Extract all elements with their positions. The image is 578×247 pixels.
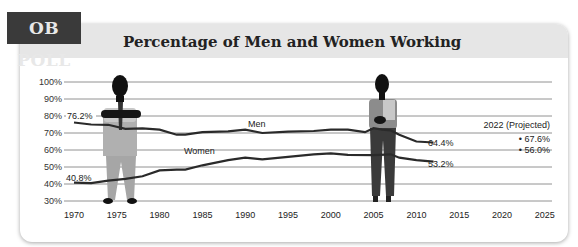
y-axis-labels: 30%40%50%60%70%80%90%100% (39, 77, 62, 206)
x-tick-label: 2015 (449, 210, 469, 220)
x-tick-label: 1995 (278, 210, 298, 220)
chart-annotations: 76.2%40.8%MenWomen64.4%53.2%2022 (Projec… (66, 110, 550, 183)
x-tick-label: 2020 (492, 210, 512, 220)
x-axis-labels: 1970197519801985199019952000200520102015… (64, 210, 555, 220)
y-tick-label: 50% (44, 162, 62, 172)
men-projected-value: • 67.6% (519, 134, 550, 144)
chart-card: Percentage of Men and Women Working 30%4… (20, 24, 568, 242)
y-tick-label: 40% (44, 179, 62, 189)
x-tick-label: 2010 (406, 210, 426, 220)
x-tick-label: 2000 (321, 210, 341, 220)
x-tick-label: 2005 (364, 210, 384, 220)
x-tick-label: 2025 (535, 210, 555, 220)
women-start-label: 40.8% (66, 173, 92, 183)
ob-poll-tag: OB POLL (7, 12, 81, 44)
x-tick-label: 1980 (150, 210, 170, 220)
projected-header: 2022 (Projected) (483, 120, 550, 130)
y-tick-label: 100% (39, 77, 62, 87)
line-chart: 30%40%50%60%70%80%90%100% 19701975198019… (20, 24, 568, 242)
y-tick-label: 30% (44, 196, 62, 206)
y-tick-label: 90% (44, 94, 62, 104)
gridlines (64, 82, 552, 201)
x-tick-label: 1985 (192, 210, 212, 220)
x-tick-label: 1970 (64, 210, 84, 220)
x-tick-label: 1990 (235, 210, 255, 220)
x-tick-label: 1975 (107, 210, 127, 220)
y-tick-label: 80% (44, 111, 62, 121)
y-tick-label: 60% (44, 145, 62, 155)
y-tick-label: 70% (44, 128, 62, 138)
women-end-label: 53.2% (428, 159, 454, 169)
men-series-label: Men (248, 119, 266, 129)
men-start-label: 76.2% (67, 111, 93, 121)
woman-silhouette-icon (369, 74, 397, 202)
women-projected-value: • 56.0% (519, 145, 550, 155)
women-series-label: Women (184, 146, 215, 156)
men-end-label: 64.4% (428, 138, 454, 148)
man-silhouette-icon (101, 75, 141, 204)
